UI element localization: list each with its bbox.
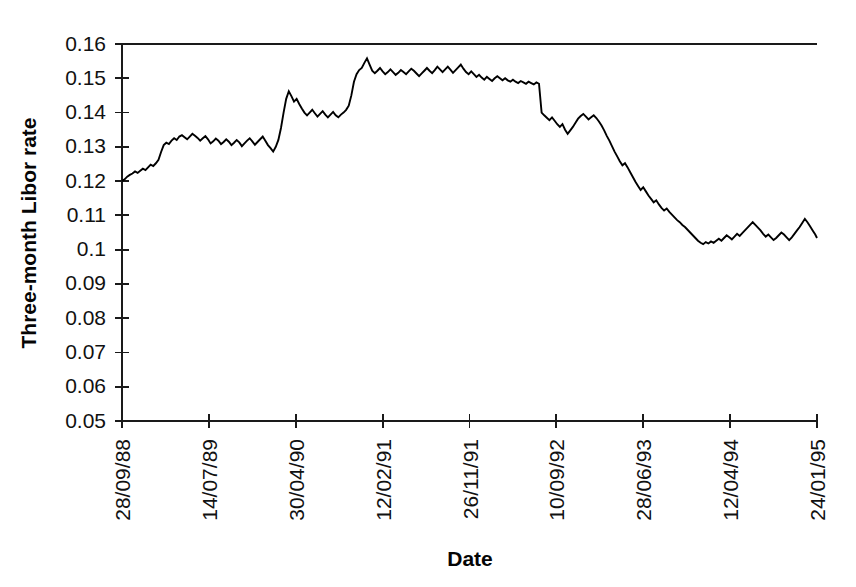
x-tick-label: 12/04/94 [719,439,742,521]
libor-rate-chart: 0.160.150.140.130.120.110.10.090.080.070… [0,0,856,587]
x-tick-label: 30/04/90 [285,439,308,521]
y-tick-label: 0.1 [77,237,106,260]
y-tick-label: 0.06 [65,374,106,397]
y-tick-label: 0.07 [65,340,106,363]
x-axis-tick-labels: 28/09/8814/07/8930/04/9012/02/9126/11/91… [111,439,829,521]
x-tick-label: 10/09/92 [545,439,568,521]
y-tick-label: 0.11 [67,203,106,226]
y-tick-label: 0.14 [65,100,106,123]
x-tick-label: 12/02/91 [372,439,395,521]
x-tick-label: 24/01/95 [806,439,829,521]
y-tick-label: 0.12 [65,169,106,192]
y-tick-label: 0.13 [65,134,106,157]
y-tick-label: 0.16 [65,32,106,55]
y-tick-label: 0.15 [65,66,106,89]
x-tick-label: 28/09/88 [111,439,134,521]
x-axis-title: Date [447,547,493,570]
x-tick-label: 28/06/93 [632,439,655,521]
y-tick-label: 0.08 [65,306,106,329]
x-tick-label: 26/11/91 [459,439,482,519]
y-axis-title: Three-month Libor rate [17,117,40,348]
y-tick-label: 0.09 [65,271,106,294]
y-tick-label: 0.05 [65,409,106,432]
chart-canvas: 0.160.150.140.130.120.110.10.090.080.070… [0,0,856,587]
x-tick-label: 14/07/89 [198,439,221,521]
